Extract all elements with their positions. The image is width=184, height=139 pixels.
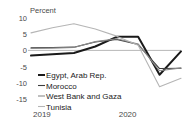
chart-container: Percent 1050-5-10-15 20192020 Egypt, Ara… [0,0,184,139]
y-tick-label: 5 [23,30,27,39]
x-tick-label: 2020 [119,110,137,119]
y-axis-unit-text: Percent [30,6,57,15]
y-tick-label: 0 [23,46,27,55]
y-tick-label: -5 [20,63,27,72]
y-axis-ticks: 1050-5-10-15 [16,14,27,104]
legend-label: Morocco [46,82,77,91]
legend: Egypt, Arab Rep.MoroccoWest Bank and Gaz… [38,71,122,112]
line-chart: Percent 1050-5-10-15 20192020 Egypt, Ara… [0,0,184,139]
legend-label: Egypt, Arab Rep. [46,71,106,80]
legend-label: West Bank and Gaza [46,92,122,101]
y-tick-label: -10 [16,79,27,88]
y-tick-label: -15 [16,95,27,104]
y-axis-unit-label: Percent [30,6,57,15]
legend-label: Tunisia [46,103,72,112]
y-tick-label: 10 [19,14,27,23]
